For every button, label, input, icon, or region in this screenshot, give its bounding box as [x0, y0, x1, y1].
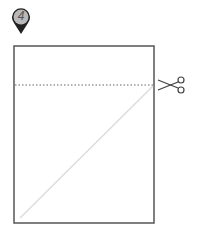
scissors-icon: [158, 77, 184, 93]
paper-diagram: [0, 0, 197, 230]
paper-sheet: [14, 46, 154, 223]
fold-line: [20, 86, 153, 218]
